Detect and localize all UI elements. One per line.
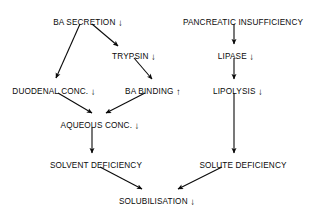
- node-solubilisation: SOLUBILISATION↓: [119, 197, 195, 207]
- node-duodenal-conc: DUODENAL CONC.↓: [12, 87, 95, 97]
- node-ba-binding: BA BINDING↑: [125, 87, 181, 97]
- node-lipase: LIPASE↓: [218, 52, 254, 62]
- node-label: BA BINDING: [125, 87, 173, 96]
- down-arrow-icon: ↓: [249, 53, 254, 61]
- node-lipolysis: LIPOLYSIS↓: [213, 87, 263, 97]
- node-label: AQUEOUS CONC.: [61, 121, 133, 130]
- node-ba-secretion: BA SECRETION↓: [53, 18, 123, 28]
- node-label: PANCREATIC INSUFFICIENCY: [183, 18, 303, 27]
- down-arrow-icon: ↓: [258, 88, 263, 96]
- node-label: BA SECRETION: [53, 18, 115, 27]
- node-label: TRYPSIN: [112, 52, 148, 61]
- node-label: LIPASE: [218, 52, 247, 61]
- down-arrow-icon: ↓: [91, 88, 96, 96]
- node-solvent-deficiency: SOLVENT DEFICIENCY: [50, 161, 142, 171]
- flowchart-diagram: BA SECRETION↓TRYPSIN↓DUODENAL CONC.↓BA B…: [0, 0, 312, 215]
- node-solute-deficiency: SOLUTE DEFICIENCY: [199, 161, 286, 171]
- node-label: DUODENAL CONC.: [12, 87, 88, 96]
- connector-arrow: [56, 24, 80, 78]
- down-arrow-icon: ↓: [151, 53, 156, 61]
- node-label: SOLVENT DEFICIENCY: [50, 161, 142, 170]
- node-aqueous-conc: AQUEOUS CONC.↓: [61, 121, 140, 131]
- down-arrow-icon: ↓: [118, 19, 123, 27]
- node-label: SOLUTE DEFICIENCY: [199, 161, 286, 170]
- down-arrow-icon: ↓: [135, 122, 140, 130]
- edge-layer: [0, 0, 312, 215]
- node-trypsin: TRYPSIN↓: [112, 52, 156, 62]
- node-label: LIPOLYSIS: [213, 87, 256, 96]
- down-arrow-icon: ↓: [190, 198, 195, 206]
- node-label: SOLUBILISATION: [119, 197, 188, 206]
- up-arrow-icon: ↑: [176, 88, 181, 96]
- node-pancreatic-insufficiency: PANCREATIC INSUFFICIENCY: [183, 18, 303, 28]
